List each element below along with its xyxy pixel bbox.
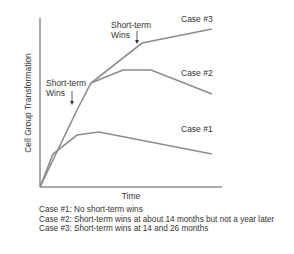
label-case-2: Case #2 [181, 68, 213, 78]
annotation-win-2-line2: Wins [111, 30, 130, 40]
caption-case-2: Case #2: Short-term wins at about 14 mon… [39, 215, 274, 225]
caption-case-1: Case #1: No short-term wins [39, 205, 274, 215]
label-case-1: Case #1 [181, 124, 213, 134]
caption-case-3: Case #3: Short-term wins at 14 and 26 mo… [39, 224, 274, 234]
label-case-3: Case #3 [181, 14, 213, 24]
x-axis-label: Time [122, 191, 141, 201]
y-axis-label: Cell Group Transformation [23, 53, 33, 153]
caption-block: Case #1: No short-term wins Case #2: Sho… [39, 205, 274, 234]
series-case-3 [40, 29, 212, 187]
annotation-win-1-line1: Short-term [46, 78, 86, 88]
arrow-head-icon [70, 101, 74, 105]
annotation-win-1-line2: Wins [46, 88, 65, 98]
arrow-head-icon [135, 40, 139, 44]
series-case-1 [40, 132, 212, 187]
annotation-win-2-line1: Short-term [111, 20, 151, 30]
